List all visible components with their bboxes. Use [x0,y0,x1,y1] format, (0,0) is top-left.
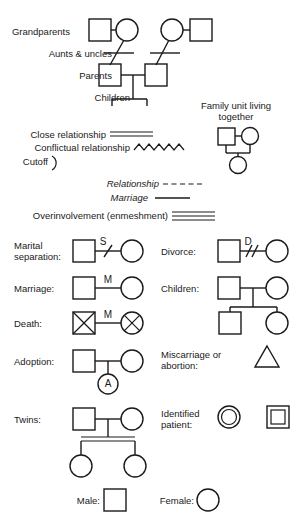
label-female: Female: [144,495,194,506]
children-mother-circle [266,277,288,299]
label-divorce: Divorce: [161,246,196,257]
adoption-father-square [73,350,95,372]
label-marriage-line: Marriage [60,192,148,203]
label-death: Death: [14,318,42,329]
children-daughter-circle [266,312,288,334]
label-cutoff: Cutoff [2,156,48,167]
label-family-unit-line1: Family unit living [180,100,292,111]
marker-death-m: M [101,309,115,320]
label-conflictual-relationship: Conflictual relationship [2,142,130,153]
family-tree-graphic [0,0,299,525]
twin-child-right-circle [124,455,146,477]
grandfather-right-square [190,19,212,41]
divorce-circle [266,240,288,262]
label-identified-patient-line2: patient: [161,419,192,430]
marker-divorce-d: D [241,236,255,247]
divorce-square [218,240,240,262]
label-identified-patient-line1: Identified [161,408,200,419]
label-adoption: Adoption: [14,356,54,367]
label-twins: Twins: [14,414,41,425]
identified-patient-square-outer [267,406,289,428]
label-family-unit-line2: together [180,111,292,122]
children-father-square [218,277,240,299]
adoption-mother-circle [121,350,143,372]
label-children-symbol: Children: [161,283,199,294]
miscarriage-triangle [255,346,279,367]
parent-father-square [99,64,121,86]
label-close-relationship: Close relationship [2,129,106,140]
marriage-circle [121,277,143,299]
children-son-square [219,312,241,334]
marital-separation-circle [121,240,143,262]
genogram-legend: Grandparents Aunts & uncles Parents Chil… [0,0,299,525]
marker-adoption-a: A [101,378,115,389]
family-unit-mother-circle [242,128,259,145]
twins-father-square [73,408,95,430]
twins-mother-circle [121,408,143,430]
label-miscarriage-line2: abortion: [161,360,198,371]
identified-patient-square-inner [271,410,285,424]
grandmother-right-circle [161,19,183,41]
family-unit-father-square [218,128,235,145]
male-key-square [104,489,126,511]
label-miscarriage-line1: Miscarriage or [161,349,221,360]
marker-marriage-m: M [101,274,115,285]
grandmother-circle [116,19,138,41]
family-unit-child-circle [230,157,247,174]
label-marital-separation-line2: separation: [14,251,61,262]
twin-child-left-circle [70,455,92,477]
marker-separation-s: S [96,236,110,247]
label-male: Male: [54,495,100,506]
female-key-circle [197,489,219,511]
conflictual-relationship-zigzag [134,144,184,150]
cutoff-arc [52,156,56,170]
grandfather-square [89,19,111,41]
label-overinvolvement: Overinvolvement (enmeshment) [8,210,168,221]
identified-patient-circle-inner [222,410,237,425]
marriage-square [73,277,95,299]
label-marriage-symbol: Marriage: [14,283,54,294]
marital-separation-square [73,240,95,262]
label-marital-separation-line1: Marital [14,240,43,251]
parent-mother-square [145,64,167,86]
label-relationship: Relationship [60,178,159,189]
